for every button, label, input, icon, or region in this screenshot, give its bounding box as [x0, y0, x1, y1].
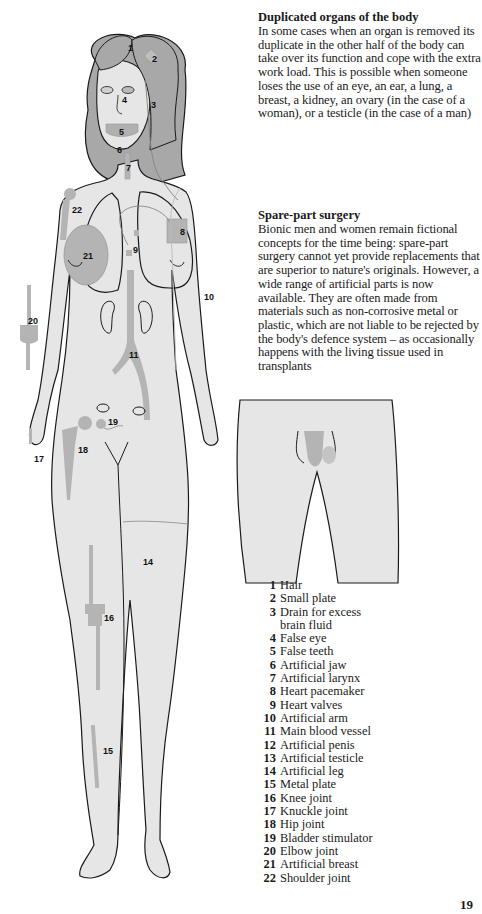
label-small-plate: 2	[152, 55, 157, 64]
legend-item: 4False eye	[258, 632, 458, 645]
legend-item: 10Artificial arm	[258, 712, 458, 725]
legend-item: 20Elbow joint	[258, 845, 458, 858]
section-body: In some cases when an organ is removed i…	[258, 25, 482, 121]
legend-item: 9Heart valves	[258, 699, 458, 712]
legend-item: 22Shoulder joint	[258, 872, 458, 885]
legend-item: 6Artificial jaw	[258, 659, 458, 672]
legend-item: 7Artificial larynx	[258, 672, 458, 685]
label-larynx: 7	[126, 164, 131, 173]
label-artificial-leg: 14	[143, 558, 153, 567]
label-blood-vessel: 11	[129, 351, 139, 360]
label-artificial-breast: 21	[83, 252, 93, 261]
label-bladder-stimulator: 19	[108, 418, 118, 427]
legend-item: 15Metal plate	[258, 778, 458, 791]
label-artificial-jaw: 6	[117, 146, 122, 155]
section-heading: Spare-part surgery	[258, 208, 482, 223]
body-diagram: 1 2 3 4 5 6 7 8 9 10 11 12 13 14 15 16 1…	[0, 0, 260, 914]
label-false-teeth: 5	[119, 128, 124, 137]
label-hair: 1	[128, 44, 133, 53]
section-body: Bionic men and women remain fictional co…	[258, 223, 482, 374]
legend-item: 14Artificial leg	[258, 765, 458, 778]
legend-item: 17Knuckle joint	[258, 805, 458, 818]
legend-item: 3Drain for excess	[258, 606, 458, 619]
legend-item: 2Small plate	[258, 592, 458, 605]
legend-item: 12Artificial penis	[258, 739, 458, 752]
label-elbow-joint: 20	[28, 317, 38, 326]
page-number: 19	[460, 897, 473, 913]
legend-item: 8Heart pacemaker	[258, 685, 458, 698]
legend-item: 19Bladder stimulator	[258, 832, 458, 845]
section-heading: Duplicated organs of the body	[258, 10, 482, 25]
label-metal-plate: 15	[103, 747, 113, 756]
section-duplicated-organs: Duplicated organs of the body In some ca…	[258, 10, 482, 121]
legend-item: 13Artificial testicle	[258, 752, 458, 765]
legend-item: 16Knee joint	[258, 792, 458, 805]
legend-item: 18Hip joint	[258, 818, 458, 831]
figure-legend: 1Hair 2Small plate 3Drain for excess bra…	[258, 579, 458, 885]
legend-item-continuation: brain fluid	[258, 619, 458, 632]
legend-item: 21Artificial breast	[258, 858, 458, 871]
label-hip-joint: 18	[78, 446, 88, 455]
label-knuckle-joint: 17	[34, 455, 44, 464]
label-pacemaker: 8	[180, 228, 185, 237]
section-spare-part-surgery: Spare-part surgery Bionic men and women …	[258, 208, 482, 374]
legend-item: 1Hair	[258, 579, 458, 592]
legend-item: 5False teeth	[258, 645, 458, 658]
label-artificial-arm: 10	[204, 293, 214, 302]
label-false-eye: 4	[122, 96, 127, 105]
label-heart-valves: 9	[133, 246, 138, 255]
label-knee-joint: 16	[104, 614, 114, 623]
label-shoulder-joint: 22	[72, 206, 82, 215]
legend-item: 11Main blood vessel	[258, 725, 458, 738]
male-inset-diagram	[232, 397, 402, 587]
label-drain: 3	[151, 101, 156, 110]
